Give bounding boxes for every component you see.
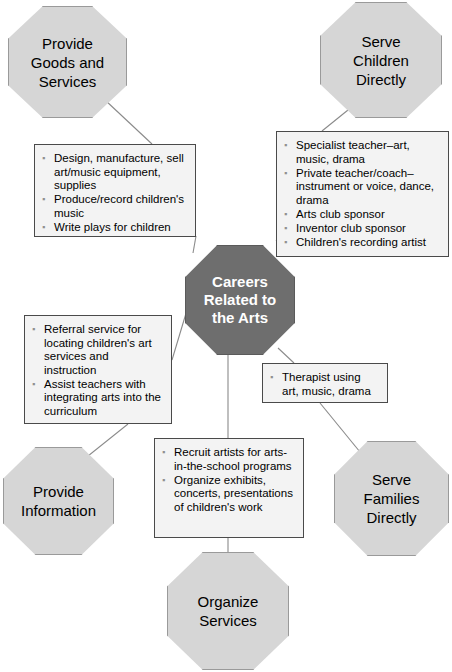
textbox-provide-information: Referral service for locating children's… xyxy=(24,315,172,424)
bullet-item: Recruit artists for arts-in-the-school p… xyxy=(161,446,296,473)
connector-info-octagon-to-box xyxy=(88,424,128,456)
bullet-item: Referral service for locating children's… xyxy=(31,323,164,377)
bullet-item: Write plays for children xyxy=(41,221,188,235)
center-title: Careers Related to the Arts xyxy=(200,273,281,327)
octagon-organize-services: Organize Services xyxy=(167,552,289,670)
bullet-item: Arts club sponsor xyxy=(283,208,441,222)
bullet-item: Design, manufacture, sell art/music equi… xyxy=(41,152,188,193)
octagon-serve-families-directly: Serve Families Directly xyxy=(334,441,449,556)
connector-therapist-box-to-families-octagon xyxy=(320,403,360,452)
octagon-label: Provide Information xyxy=(17,482,100,520)
octagon-provide-information: Provide Information xyxy=(3,447,114,555)
textbox-serve-children-directly: Specialist teacher–art, music, dramaPriv… xyxy=(276,131,449,257)
connector-center-to-goods-box xyxy=(193,236,196,253)
textbox-organize-services: Recruit artists for arts-in-the-school p… xyxy=(154,438,304,538)
bullet-item: Therapist using art, music, drama xyxy=(269,371,380,398)
bullet-item: Assist teachers with integrating arts in… xyxy=(31,378,164,419)
connector-children-octagon-to-box xyxy=(322,110,348,131)
concept-map-diagram: Provide Goods and Services Serve Childre… xyxy=(0,0,452,672)
octagon-label: Organize Services xyxy=(194,592,263,630)
textbox-serve-families-directly: Therapist using art, music, drama xyxy=(262,363,388,403)
center-octagon-careers-related-to-the-arts: Careers Related to the Arts xyxy=(185,245,295,355)
octagon-provide-goods-and-services: Provide Goods and Services xyxy=(8,6,127,118)
connector-goods-octagon-to-box xyxy=(105,100,152,144)
bullet-item: Produce/record children's music xyxy=(41,193,188,220)
bullet-list: Therapist using art, music, drama xyxy=(269,371,380,398)
bullet-item: Private teacher/coach–instrument or voic… xyxy=(283,167,441,208)
bullet-item: Organize exhibits, concerts, presentatio… xyxy=(161,474,296,515)
connector-center-to-therapist-box xyxy=(278,348,294,363)
textbox-provide-goods-and-services: Design, manufacture, sell art/music equi… xyxy=(34,144,196,237)
octagon-label: Serve Children Directly xyxy=(349,32,413,89)
bullet-item: Inventor club sponsor xyxy=(283,222,441,236)
bullet-item: Specialist teacher–art, music, drama xyxy=(283,139,441,166)
bullet-list: Design, manufacture, sell art/music equi… xyxy=(41,152,188,235)
bullet-list: Specialist teacher–art, music, dramaPriv… xyxy=(283,139,441,250)
octagon-label: Provide Goods and Services xyxy=(27,34,108,91)
bullet-list: Recruit artists for arts-in-the-school p… xyxy=(161,446,296,514)
octagon-label: Serve Families Directly xyxy=(360,470,424,527)
octagon-serve-children-directly: Serve Children Directly xyxy=(320,2,442,118)
bullet-item: Children's recording artist xyxy=(283,236,441,250)
bullet-list: Referral service for locating children's… xyxy=(31,323,164,419)
